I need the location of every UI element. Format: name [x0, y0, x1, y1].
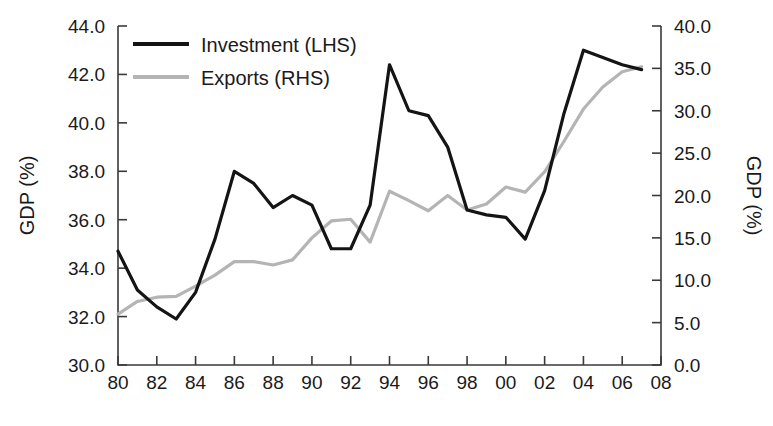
x-tick-label: 02	[534, 372, 555, 393]
right-tick-label: 10.0	[674, 270, 711, 291]
x-tick-label: 82	[146, 372, 167, 393]
series-line-investment	[118, 50, 642, 319]
x-tick-label: 90	[301, 372, 322, 393]
x-axis-ticks: 808284868890929496980002040608	[107, 356, 671, 393]
left-tick-label: 30.0	[68, 355, 105, 376]
chart-container: 30.032.034.036.038.040.042.044.0 0.05.01…	[0, 0, 773, 426]
right-tick-label: 40.0	[674, 16, 711, 37]
x-tick-label: 92	[340, 372, 361, 393]
x-tick-label: 96	[418, 372, 439, 393]
right-tick-label: 15.0	[674, 228, 711, 249]
left-tick-label: 34.0	[68, 258, 105, 279]
left-axis-title: GDP (%)	[16, 156, 38, 236]
line-chart: 30.032.034.036.038.040.042.044.0 0.05.01…	[0, 0, 773, 426]
x-tick-label: 94	[379, 372, 401, 393]
right-tick-label: 30.0	[674, 101, 711, 122]
series-line-exports	[118, 67, 642, 314]
x-tick-label: 06	[612, 372, 633, 393]
right-tick-label: 5.0	[674, 313, 700, 334]
left-tick-label: 42.0	[68, 64, 105, 85]
x-tick-label: 84	[185, 372, 207, 393]
x-tick-label: 98	[457, 372, 478, 393]
right-tick-label: 20.0	[674, 186, 711, 207]
x-tick-label: 86	[224, 372, 245, 393]
chart-legend: Investment (LHS)Exports (RHS)	[133, 34, 357, 89]
x-tick-label: 04	[573, 372, 595, 393]
left-tick-label: 36.0	[68, 210, 105, 231]
left-tick-label: 40.0	[68, 113, 105, 134]
legend-label: Investment (LHS)	[201, 34, 357, 56]
left-tick-label: 32.0	[68, 307, 105, 328]
right-tick-label: 0.0	[674, 355, 700, 376]
series-lines	[118, 50, 642, 319]
left-tick-label: 38.0	[68, 161, 105, 182]
x-tick-label: 08	[650, 372, 671, 393]
x-tick-label: 00	[495, 372, 516, 393]
right-tick-label: 35.0	[674, 58, 711, 79]
right-axis-title: GDP (%)	[743, 156, 765, 236]
x-tick-label: 88	[263, 372, 284, 393]
right-tick-label: 25.0	[674, 143, 711, 164]
left-tick-label: 44.0	[68, 16, 105, 37]
legend-label: Exports (RHS)	[201, 67, 330, 89]
x-tick-label: 80	[107, 372, 128, 393]
